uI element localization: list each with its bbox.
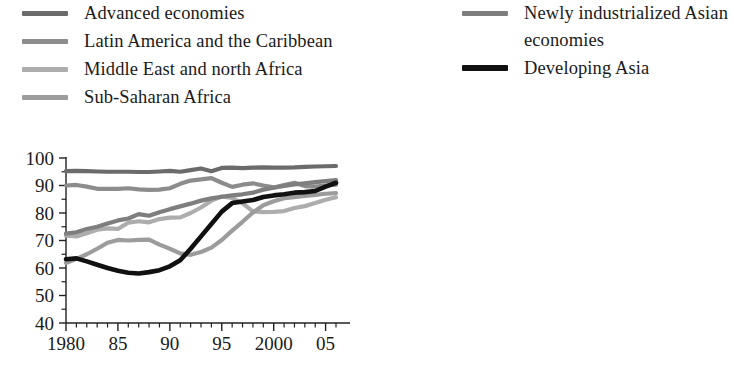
line-chart: 405060708090100 1980859095200005 <box>0 140 400 383</box>
chart-legend: Advanced economies Latin America and the… <box>0 0 734 140</box>
legend-item-newly-industrialized-asia: Newly industrialized Asian economies <box>462 0 734 54</box>
legend-line-newly-industrialized-asia <box>462 11 508 16</box>
x-tick-label: 1980 <box>47 333 85 354</box>
x-axis: 1980859095200005 <box>47 323 350 354</box>
legend-line-middle-east <box>22 67 68 72</box>
legend-item-sub-saharan-africa: Sub-Saharan Africa <box>22 84 452 111</box>
y-tick-label: 40 <box>35 313 54 334</box>
legend-label-newly-industrialized-asia: Newly industrialized Asian economies <box>524 0 728 54</box>
legend-column-right: Newly industrialized Asian economies Dev… <box>462 0 734 83</box>
chart-canvas: 405060708090100 1980859095200005 <box>0 140 400 383</box>
y-tick-label: 50 <box>35 285 54 306</box>
legend-label-middle-east: Middle East and north Africa <box>84 56 303 83</box>
x-tick-label: 2000 <box>255 333 293 354</box>
legend-label-sub-saharan-africa: Sub-Saharan Africa <box>84 84 231 111</box>
legend-label-advanced-economies: Advanced economies <box>84 0 245 27</box>
legend-item-developing-asia: Developing Asia <box>462 55 734 82</box>
legend-item-advanced-economies: Advanced economies <box>22 0 452 27</box>
y-axis: 405060708090100 <box>26 148 67 334</box>
legend-line-sub-saharan-africa <box>22 95 68 100</box>
legend-line-advanced-economies <box>22 11 68 16</box>
y-tick-label: 60 <box>35 258 54 279</box>
x-tick-label: 90 <box>160 333 179 354</box>
legend-item-latin-america: Latin America and the Caribbean <box>22 28 452 55</box>
legend-line-developing-asia <box>462 65 508 71</box>
legend-label-latin-america: Latin America and the Caribbean <box>84 28 333 55</box>
y-tick-label: 70 <box>35 230 54 251</box>
legend-line-latin-america <box>22 39 68 44</box>
series-line-advanced-economies <box>66 166 336 172</box>
legend-item-middle-east: Middle East and north Africa <box>22 56 452 83</box>
x-tick-label: 05 <box>316 333 335 354</box>
y-tick-label: 90 <box>35 175 54 196</box>
legend-column-left: Advanced economies Latin America and the… <box>22 0 452 112</box>
y-tick-label: 80 <box>35 203 54 224</box>
y-tick-label: 100 <box>26 148 55 169</box>
data-series-group <box>66 166 336 274</box>
x-tick-label: 85 <box>108 333 127 354</box>
legend-label-developing-asia: Developing Asia <box>524 55 649 82</box>
x-tick-label: 95 <box>212 333 231 354</box>
